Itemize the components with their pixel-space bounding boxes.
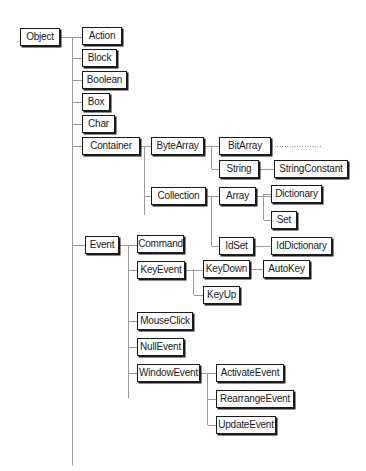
class-node-array: Array	[219, 187, 256, 205]
class-node-rearrangeevent: RearrangeEvent	[216, 390, 294, 408]
class-node-string: String	[219, 160, 259, 178]
class-node-event: Event	[85, 236, 119, 254]
class-node-block: Block	[82, 49, 117, 67]
class-node-box: Box	[82, 93, 110, 111]
class-node-action: Action	[82, 27, 122, 45]
class-node-bytearray: ByteArray	[151, 137, 204, 155]
class-node-stringconstant: StringConstant	[274, 160, 348, 178]
class-node-iddictionary: IdDictionary	[271, 237, 332, 255]
class-node-keyevent: KeyEvent	[137, 261, 185, 279]
class-node-windowevent: WindowEvent	[137, 364, 200, 382]
class-node-mouseclick: MouseClick	[137, 312, 193, 330]
class-node-keydown: KeyDown	[203, 260, 250, 278]
class-node-keyup: KeyUp	[203, 286, 240, 304]
class-node-collection: Collection	[151, 187, 206, 205]
class-node-bitarray: BitArray	[219, 137, 271, 155]
class-node-updateevent: UpdateEvent	[216, 416, 276, 434]
class-node-boolean: Boolean	[82, 71, 127, 89]
class-node-idset: IdSet	[219, 237, 254, 255]
class-node-nullevent: NullEvent	[137, 338, 184, 356]
class-hierarchy-diagram: ObjectActionBlockBooleanBoxCharContainer…	[0, 0, 366, 471]
class-node-autokey: AutoKey	[263, 260, 310, 278]
class-node-object: Object	[20, 28, 60, 46]
class-node-activateevent: ActivateEvent	[216, 364, 284, 382]
class-node-container: Container	[82, 137, 140, 155]
class-node-char: Char	[82, 115, 115, 133]
class-node-command: Command	[137, 235, 184, 253]
class-node-dictionary: Dictionary	[271, 185, 322, 203]
class-node-set: Set	[271, 211, 297, 229]
